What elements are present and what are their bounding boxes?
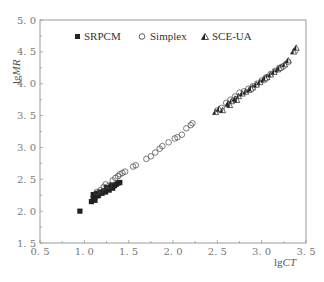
y-tick-label: 2. 5: [17, 174, 36, 185]
series-sce-ua: [213, 45, 300, 115]
open-circle-icon: [139, 34, 145, 40]
x-tick-label: 2. 5: [208, 246, 227, 257]
legend-label: SCE-UA: [212, 30, 252, 42]
circle-marker: [166, 140, 172, 146]
y-tick-label: 5. 0: [17, 15, 36, 26]
y-axis: 1. 52. 02. 53. 03. 54. 04. 55. 0: [17, 15, 43, 249]
legend: SRPCM Simplex SCE-UA: [75, 30, 252, 42]
x-tick-label: 1. 5: [119, 246, 138, 257]
y-tick-label: 3. 0: [17, 142, 36, 153]
x-tick-label: 2. 0: [163, 246, 182, 257]
legend-item-sce-ua: SCE-UA: [202, 30, 252, 42]
square-marker: [95, 193, 100, 198]
square-marker: [77, 209, 82, 214]
y-tick-label: 1. 5: [17, 238, 36, 249]
legend-label: Simplex: [150, 30, 187, 42]
y-tick-label: 4. 5: [17, 46, 36, 57]
series-simplex: [94, 48, 298, 195]
series-srpcm: [77, 180, 122, 214]
y-tick-label: 3. 5: [17, 110, 36, 121]
scatter-chart: 0. 51. 01. 52. 02. 53. 03. 5 1. 52. 02. …: [0, 0, 324, 282]
legend-item-simplex: Simplex: [139, 30, 187, 42]
y-tick-label: 2. 0: [17, 206, 36, 217]
x-tick-label: 1. 0: [75, 246, 94, 257]
y-axis-title: lgMR: [10, 59, 22, 84]
x-tick-label: 3. 5: [296, 246, 315, 257]
x-axis-title: lgCT: [274, 256, 297, 268]
square-marker: [117, 180, 122, 185]
x-tick-label: 3. 0: [252, 246, 271, 257]
filled-square-icon: [75, 34, 80, 39]
data-points: [77, 45, 299, 214]
legend-label: SRPCM: [84, 30, 121, 42]
circle-marker: [179, 132, 185, 138]
square-marker: [92, 198, 97, 203]
legend-item-srpcm: SRPCM: [75, 30, 121, 42]
